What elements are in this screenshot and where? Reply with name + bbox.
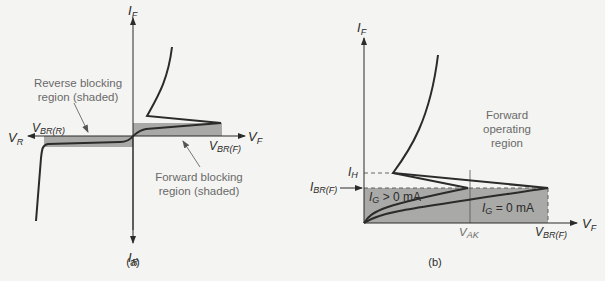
scr-characteristics-diagram: IF IR VF VR VBR(R) VBR(F) Reverse blocki… [0, 0, 605, 281]
scr-curve-reverse [36, 136, 133, 221]
vbr-f-label-b: VBR(F) [535, 225, 567, 240]
forward-operating-note-line2: operating [483, 123, 531, 135]
panel-b: IF VF IH IBR(F) VAK VBR(F) IG > 0 mA IG … [310, 20, 597, 268]
vbr-r-label: VBR(R) [32, 121, 65, 136]
panel-b-caption: (b) [428, 256, 441, 268]
forward-blocking-note-line1: Forward blocking [155, 171, 243, 183]
vbr-f-label: VBR(F) [209, 139, 241, 154]
if-label: IF [128, 3, 138, 20]
vr-label: VR [8, 130, 24, 147]
forward-operating-note-line1: Forward [486, 109, 528, 121]
reverse-blocking-note-line2: region (shaded) [38, 91, 119, 103]
panel-a: IF IR VF VR VBR(R) VBR(F) Reverse blocki… [8, 3, 263, 268]
if-label-b: IF [357, 20, 367, 37]
ih-label: IH [348, 165, 358, 180]
reverse-pointer-arrow [74, 103, 88, 132]
scr-curve-forward [133, 47, 221, 136]
vf-label: VF [248, 129, 263, 146]
vf-label-b: VF [582, 216, 597, 233]
forward-operating-note-line3: region [491, 137, 523, 149]
forward-pointer-arrow [183, 141, 200, 167]
vak-label: VAK [459, 226, 480, 240]
forward-blocking-note-line2: region (shaded) [159, 185, 240, 197]
panel-a-caption: (a) [126, 256, 139, 268]
reverse-blocking-note-line1: Reverse blocking [34, 77, 122, 89]
ibr-label: IBR(F) [310, 180, 337, 195]
